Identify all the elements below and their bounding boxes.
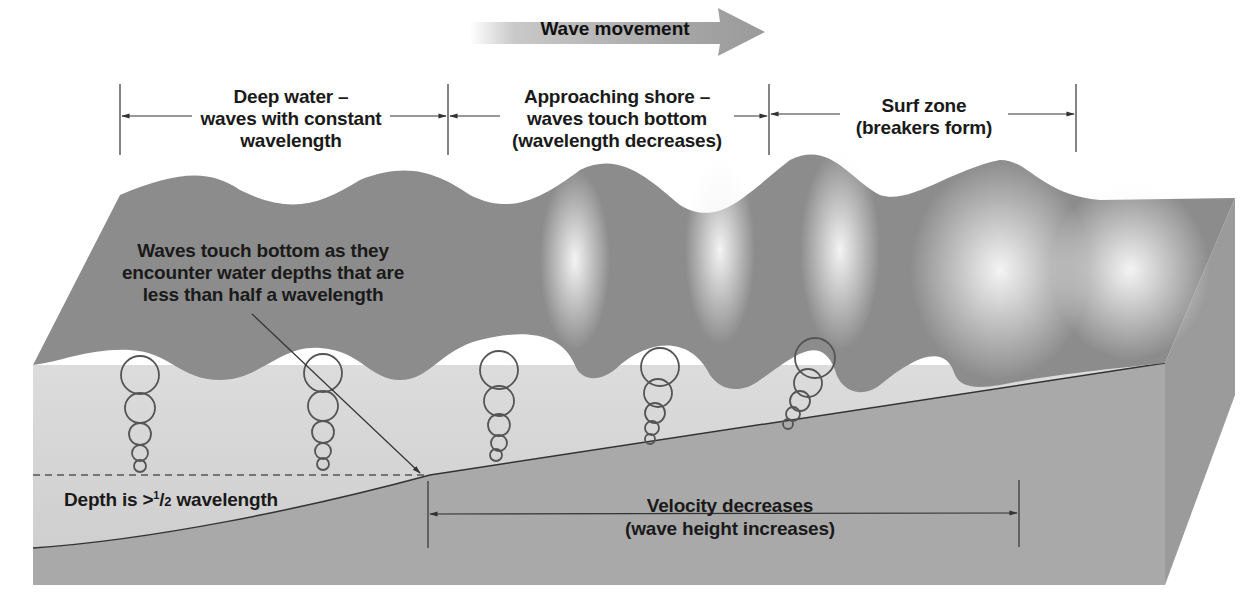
zone-deep-line-2: waves with constant (196, 108, 386, 130)
zone-approach-line-3: (wavelength decreases) (504, 130, 730, 152)
velocity-label: Velocity decreases (wave height increase… (615, 494, 845, 540)
zone-label-surf-zone: Surf zone (breakers form) (840, 95, 1008, 139)
zone-approach-line-1: Approaching shore – (504, 86, 730, 108)
velocity-line-2: (wave height increases) (615, 517, 845, 540)
zone-label-deep-water: Deep water – waves with constant wavelen… (192, 86, 390, 152)
zone-deep-line-3: wavelength (196, 130, 386, 152)
depth-suffix: wavelength (171, 489, 278, 510)
velocity-line-1: Velocity decreases (615, 494, 845, 517)
touch-bottom-annotation: Waves touch bottom as they encounter wat… (118, 240, 408, 306)
touch-bottom-line-3: less than half a wavelength (118, 284, 408, 306)
depth-label: Depth is >1/2 wavelength (64, 484, 278, 513)
zone-label-approaching-shore: Approaching shore – waves touch bottom (… (500, 86, 734, 152)
touch-bottom-line-2: encounter water depths that are (118, 262, 408, 284)
zone-surf-line-1: Surf zone (844, 95, 1004, 117)
wave-movement-label: Wave movement (470, 18, 760, 40)
depth-prefix: Depth is > (64, 489, 153, 510)
touch-bottom-line-1: Waves touch bottom as they (118, 240, 408, 262)
zone-approach-line-2: waves touch bottom (504, 108, 730, 130)
zone-surf-line-2: (breakers form) (844, 117, 1004, 139)
zone-deep-line-1: Deep water – (196, 86, 386, 108)
wave-movement-label-box: Wave movement (470, 6, 780, 58)
